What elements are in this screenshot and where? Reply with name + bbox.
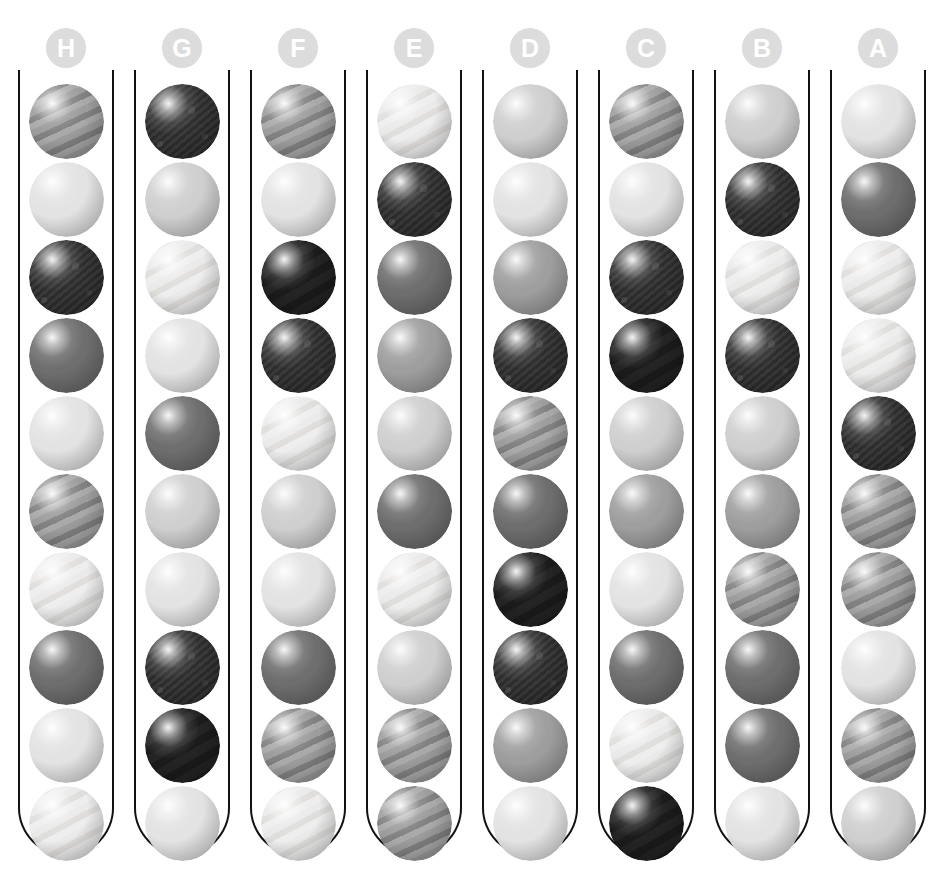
ball[interactable] bbox=[609, 474, 684, 549]
ball-shading bbox=[377, 708, 452, 783]
ball[interactable] bbox=[493, 162, 568, 237]
ball[interactable] bbox=[493, 474, 568, 549]
ball[interactable] bbox=[609, 240, 684, 315]
ball-shading bbox=[609, 240, 684, 315]
ball[interactable] bbox=[29, 708, 104, 783]
ball-shading bbox=[609, 318, 684, 393]
tube-c[interactable]: C bbox=[598, 70, 694, 856]
ball[interactable] bbox=[609, 552, 684, 627]
ball[interactable] bbox=[261, 552, 336, 627]
ball[interactable] bbox=[725, 786, 800, 861]
ball[interactable] bbox=[377, 240, 452, 315]
ball[interactable] bbox=[609, 84, 684, 159]
ball[interactable] bbox=[29, 786, 104, 861]
ball[interactable] bbox=[145, 318, 220, 393]
ball[interactable] bbox=[377, 84, 452, 159]
ball[interactable] bbox=[493, 396, 568, 471]
ball[interactable] bbox=[725, 630, 800, 705]
ball[interactable] bbox=[145, 162, 220, 237]
ball[interactable] bbox=[493, 318, 568, 393]
ball[interactable] bbox=[841, 708, 916, 783]
ball[interactable] bbox=[609, 708, 684, 783]
ball[interactable] bbox=[841, 630, 916, 705]
ball[interactable] bbox=[841, 786, 916, 861]
ball[interactable] bbox=[609, 786, 684, 861]
ball[interactable] bbox=[841, 162, 916, 237]
tube-d[interactable]: D bbox=[482, 70, 578, 856]
ball[interactable] bbox=[29, 162, 104, 237]
ball[interactable] bbox=[261, 786, 336, 861]
ball[interactable] bbox=[145, 474, 220, 549]
ball[interactable] bbox=[145, 84, 220, 159]
ball[interactable] bbox=[145, 552, 220, 627]
ball[interactable] bbox=[261, 396, 336, 471]
ball-shading bbox=[145, 84, 220, 159]
ball-shading bbox=[377, 786, 452, 861]
ball-shading bbox=[145, 786, 220, 861]
tube-b[interactable]: B bbox=[714, 70, 810, 856]
ball[interactable] bbox=[725, 396, 800, 471]
ball-shading bbox=[841, 786, 916, 861]
ball[interactable] bbox=[609, 162, 684, 237]
ball[interactable] bbox=[261, 318, 336, 393]
ball[interactable] bbox=[725, 84, 800, 159]
ball[interactable] bbox=[725, 708, 800, 783]
ball[interactable] bbox=[725, 240, 800, 315]
ball[interactable] bbox=[377, 786, 452, 861]
ball[interactable] bbox=[145, 630, 220, 705]
ball[interactable] bbox=[261, 240, 336, 315]
ball-stack bbox=[366, 84, 462, 861]
ball[interactable] bbox=[493, 240, 568, 315]
ball[interactable] bbox=[725, 162, 800, 237]
ball[interactable] bbox=[841, 318, 916, 393]
ball[interactable] bbox=[493, 84, 568, 159]
ball[interactable] bbox=[377, 630, 452, 705]
ball[interactable] bbox=[841, 84, 916, 159]
ball[interactable] bbox=[725, 552, 800, 627]
tube-e[interactable]: E bbox=[366, 70, 462, 856]
ball[interactable] bbox=[145, 786, 220, 861]
ball[interactable] bbox=[493, 708, 568, 783]
ball-shading bbox=[377, 318, 452, 393]
ball[interactable] bbox=[377, 162, 452, 237]
ball[interactable] bbox=[493, 786, 568, 861]
tube-a[interactable]: A bbox=[830, 70, 926, 856]
ball[interactable] bbox=[841, 396, 916, 471]
tube-g[interactable]: G bbox=[134, 70, 230, 856]
ball[interactable] bbox=[29, 630, 104, 705]
ball[interactable] bbox=[841, 474, 916, 549]
ball[interactable] bbox=[145, 240, 220, 315]
ball[interactable] bbox=[29, 84, 104, 159]
ball[interactable] bbox=[29, 318, 104, 393]
ball[interactable] bbox=[493, 630, 568, 705]
ball[interactable] bbox=[377, 396, 452, 471]
ball[interactable] bbox=[29, 552, 104, 627]
ball-shading bbox=[841, 474, 916, 549]
ball[interactable] bbox=[841, 240, 916, 315]
ball[interactable] bbox=[725, 474, 800, 549]
ball[interactable] bbox=[377, 318, 452, 393]
ball[interactable] bbox=[377, 474, 452, 549]
ball[interactable] bbox=[725, 318, 800, 393]
tube-h[interactable]: H bbox=[18, 70, 114, 856]
ball[interactable] bbox=[609, 318, 684, 393]
ball[interactable] bbox=[145, 708, 220, 783]
ball[interactable] bbox=[261, 474, 336, 549]
ball[interactable] bbox=[261, 162, 336, 237]
ball[interactable] bbox=[261, 84, 336, 159]
ball[interactable] bbox=[145, 396, 220, 471]
ball[interactable] bbox=[261, 708, 336, 783]
ball[interactable] bbox=[29, 396, 104, 471]
tube-f[interactable]: F bbox=[250, 70, 346, 856]
ball[interactable] bbox=[29, 474, 104, 549]
ball-shading bbox=[493, 318, 568, 393]
ball[interactable] bbox=[609, 630, 684, 705]
ball[interactable] bbox=[377, 552, 452, 627]
tube-label-f: F bbox=[278, 28, 318, 68]
ball[interactable] bbox=[493, 552, 568, 627]
ball[interactable] bbox=[609, 396, 684, 471]
ball[interactable] bbox=[29, 240, 104, 315]
ball[interactable] bbox=[261, 630, 336, 705]
ball[interactable] bbox=[377, 708, 452, 783]
ball[interactable] bbox=[841, 552, 916, 627]
